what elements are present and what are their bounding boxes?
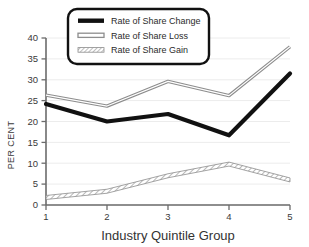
y-axis-title: PER CENT [6, 121, 16, 170]
y-tick-label: 20 [27, 116, 38, 127]
x-tick-label: 4 [226, 211, 231, 222]
x-tick-label: 3 [165, 211, 170, 222]
legend-swatch-solid-black [78, 19, 104, 23]
legend-label: Rate of Share Loss [111, 31, 189, 41]
y-tick-label: 30 [27, 74, 38, 85]
legend-swatch-hatched [78, 48, 104, 53]
y-tick-label: 5 [33, 178, 38, 189]
y-tick-label: 25 [27, 95, 38, 106]
x-tick-label: 1 [43, 211, 48, 222]
chart-container: 0 5 10 15 20 25 30 35 40 PER CENT [0, 0, 309, 247]
legend-swatch-double-gray [78, 33, 104, 37]
legend-label: Rate of Share Change [111, 16, 201, 26]
y-tick-label: 0 [33, 199, 38, 210]
legend-label: Rate of Share Gain [111, 45, 188, 55]
x-tick-label: 2 [104, 211, 109, 222]
y-tick-label: 10 [27, 158, 38, 169]
chart-legend: Rate of Share Change Rate of Share Loss … [68, 9, 209, 64]
y-tick-label: 15 [27, 137, 38, 148]
y-tick-label: 35 [27, 53, 38, 64]
x-tick-label: 5 [287, 211, 292, 222]
x-axis-title: Industry Quintile Group [101, 228, 235, 243]
line-chart: 0 5 10 15 20 25 30 35 40 PER CENT [0, 0, 309, 247]
y-tick-label: 40 [27, 32, 38, 43]
